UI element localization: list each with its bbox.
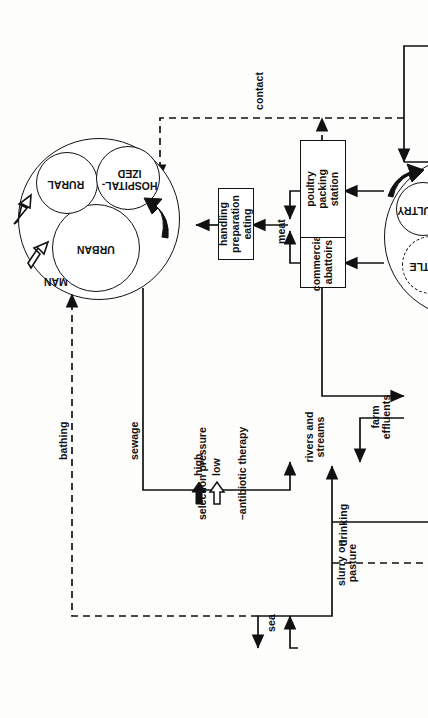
member-urban-label: URBAN [68, 243, 124, 255]
edge-label-rivers-and-streams: rivers and streams [304, 402, 327, 472]
edge-label-bathing: bathing [58, 421, 69, 460]
legend-man: selection pressure –antibiotic therapy [170, 427, 275, 520]
member-rural-label: RURAL [39, 178, 93, 190]
box-handling-label: handling preparation eating [218, 195, 253, 253]
diagram-page: MAN URBAN RURAL HOSPITAL- IZED selection… [0, 0, 428, 718]
diagram-canvas: MAN URBAN RURAL HOSPITAL- IZED selection… [0, 0, 428, 718]
box-packing-label: poultry packing station [305, 169, 340, 209]
edge-label-slurry-on-pasture: slurry on pasture [336, 532, 359, 594]
edge-label-meat: meat [276, 219, 287, 244]
edge-label-contact: contact [254, 72, 265, 110]
legend-man-line2: –antibiotic therapy [236, 427, 249, 520]
connector-lines [0, 0, 428, 718]
legend-man-high: high [193, 453, 204, 476]
edge-label-sewage: sewage [129, 421, 140, 460]
edge-label-sea: sea [266, 614, 277, 632]
member-poultry-label: POULTRY [390, 204, 428, 216]
member-hospitalized-label: HOSPITAL- IZED [96, 167, 164, 190]
box-commercial-abattoirs: commercial abattoirs [300, 236, 346, 288]
legend-man-low: low [211, 458, 222, 476]
edge-label-farm-effluents: farm effluents [370, 388, 393, 446]
box-handling: handling preparation eating [218, 188, 254, 260]
box-poultry-packing-station: poultry packing station [300, 140, 346, 238]
box-abattoirs-label: commercial abattoirs [311, 233, 335, 291]
member-cattle-label: CATTLE [402, 260, 428, 272]
